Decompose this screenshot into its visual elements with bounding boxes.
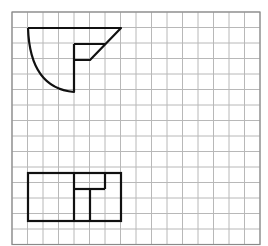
grid-lines	[12, 12, 260, 245]
grid-diagram	[0, 0, 268, 246]
